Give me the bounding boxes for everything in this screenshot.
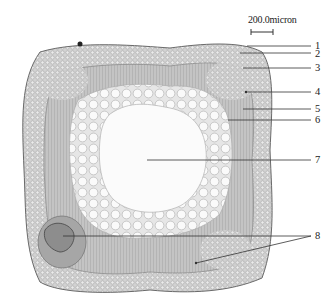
scale-bar-label: 200.0micron [248, 14, 297, 25]
label-7: 7 [315, 155, 320, 165]
label-6: 6 [315, 115, 320, 125]
scale-bar [251, 29, 273, 35]
stem-cross-section-micrograph [0, 0, 336, 303]
vascular-bundle-top-left [36, 60, 88, 100]
label-4: 4 [315, 87, 320, 97]
pith-cavity [99, 104, 206, 212]
label-8: 8 [315, 231, 320, 241]
vascular-bundle-top-right [206, 60, 258, 100]
label-3: 3 [315, 63, 320, 73]
label-5: 5 [315, 104, 320, 114]
label-2: 2 [315, 49, 320, 59]
